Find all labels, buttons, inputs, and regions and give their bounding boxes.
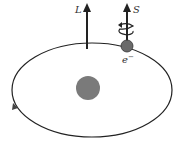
label-S: S [133, 4, 140, 15]
arrow-up-icon [123, 3, 131, 12]
electron [121, 40, 133, 52]
label-L: L [74, 4, 82, 15]
orbital-angular-momentum-vector: L [74, 3, 91, 49]
arrow-up-icon [83, 3, 91, 12]
label-electron: e− [122, 53, 134, 65]
atom-orbit-diagram: L S e− [0, 0, 177, 143]
spin-vector: S [118, 3, 140, 42]
nucleus [76, 76, 100, 100]
